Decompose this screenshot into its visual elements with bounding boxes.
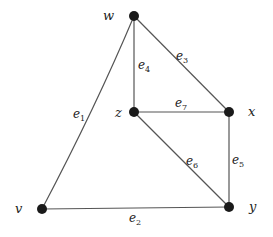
vertex-label-x: x — [248, 104, 256, 119]
edge-label-e6: e6 — [186, 154, 198, 170]
vertex-z — [129, 107, 139, 117]
edge-e6 — [134, 112, 229, 207]
edge-label-e7: e7 — [175, 96, 187, 112]
vertex-label-z: z — [114, 105, 122, 120]
vertex-y — [224, 202, 234, 212]
edge-label-e3: e3 — [176, 49, 188, 65]
edge-label-e2: e2 — [129, 211, 141, 227]
vertex-x — [224, 107, 234, 117]
edge-label-e1: e1 — [73, 107, 85, 123]
graph-diagram: e1e2e3e4e5e6e7wzxvy — [0, 0, 273, 237]
labels-group: e1e2e3e4e5e6e7wzxvy — [15, 8, 257, 227]
edge-label-e5: e5 — [232, 153, 244, 169]
vertex-label-v: v — [15, 201, 23, 216]
edge-label-e4: e4 — [138, 58, 150, 74]
vertex-v — [37, 204, 47, 214]
vertex-label-w: w — [103, 8, 114, 23]
vertex-w — [129, 11, 139, 21]
vertex-label-y: y — [248, 199, 257, 214]
edge-e2 — [42, 207, 229, 209]
